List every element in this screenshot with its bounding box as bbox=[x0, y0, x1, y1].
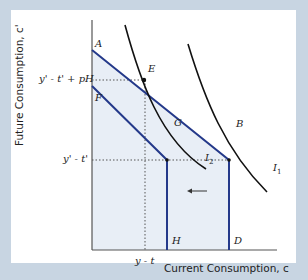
point-E-marker bbox=[142, 78, 146, 82]
y-tick-label-lower: y' - t' bbox=[63, 153, 88, 164]
x-axis-label: Current Consumption, c bbox=[164, 262, 289, 274]
point-label-D: D bbox=[234, 235, 242, 246]
point-label-G: G bbox=[174, 117, 182, 128]
point-label-E: E bbox=[148, 63, 155, 74]
point-label-H: H bbox=[172, 235, 181, 246]
curve-label-I2-sub: 2 bbox=[209, 158, 213, 166]
point-label-A: A bbox=[95, 38, 102, 49]
point-B-marker bbox=[227, 158, 231, 162]
x-tick-label: y - t bbox=[135, 255, 154, 266]
budget-shaded-region bbox=[92, 50, 229, 250]
point-label-F: F bbox=[95, 92, 102, 103]
point-label-B: B bbox=[236, 118, 243, 129]
curve-label-I1-sub: 1 bbox=[277, 168, 281, 176]
diagram-canvas bbox=[0, 0, 308, 280]
curve-label-I1: I1 bbox=[273, 162, 281, 176]
curve-label-I2: I2 bbox=[205, 152, 213, 166]
y-axis-label: Future Consumption, c' bbox=[13, 0, 25, 146]
y-tick-label-upper: y' - t' + pH bbox=[39, 73, 94, 84]
point-G-marker bbox=[165, 158, 169, 162]
